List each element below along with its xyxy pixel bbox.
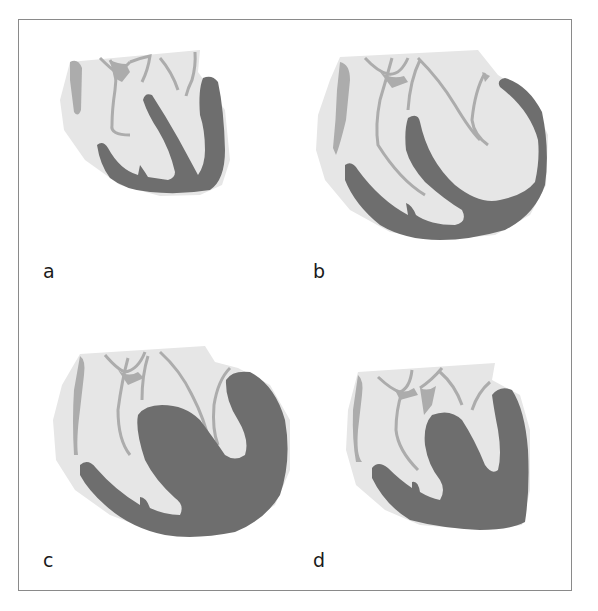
panel-label-b: b [313,262,325,281]
heart-c [53,346,290,537]
heart-diagrams [0,0,598,611]
panel-label-c: c [43,551,53,570]
heart-a [60,50,230,196]
heart-d [346,363,530,530]
heart-b [316,50,548,240]
panel-label-a: a [43,262,55,281]
panel-label-d: d [313,551,325,570]
